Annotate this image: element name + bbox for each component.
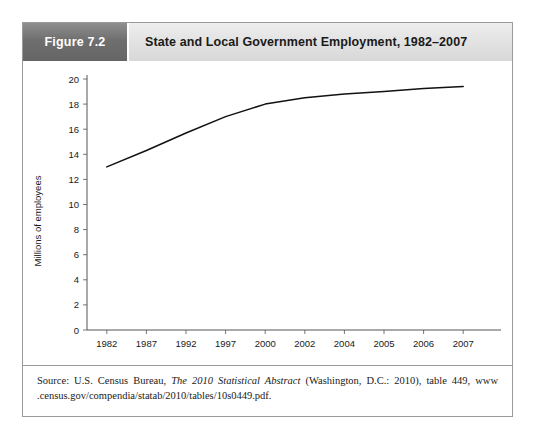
data-series-line (107, 87, 463, 167)
figure-number-badge: Figure 7.2 (23, 23, 129, 61)
y-axis-title-group: Millions of employees (32, 175, 43, 266)
x-tick-label: 2006 (413, 338, 434, 349)
figure-number-label: Figure 7.2 (44, 35, 105, 49)
x-tick-label: 1982 (96, 338, 117, 349)
figure-title-bar: State and Local Government Employment, 1… (129, 23, 512, 61)
y-tick-label: 16 (68, 124, 79, 135)
chart-plot-area: Millions of employees 02468101214161820 … (23, 61, 512, 367)
x-axis-ticks: 1982198719921997200020022004200520062007 (96, 330, 474, 349)
y-tick-label: 10 (68, 199, 79, 210)
figure-header: Figure 7.2 State and Local Government Em… (23, 23, 512, 61)
figure-title: State and Local Government Employment, 1… (145, 35, 467, 49)
y-tick-label: 20 (68, 74, 79, 85)
line-chart: Millions of employees 02468101214161820 … (23, 61, 512, 367)
y-tick-label: 12 (68, 174, 79, 185)
y-axis-ticks: 02468101214161820 (68, 74, 87, 336)
y-tick-label: 2 (74, 299, 79, 310)
y-tick-label: 14 (68, 149, 79, 160)
x-tick-label: 2007 (453, 338, 474, 349)
x-tick-label: 1987 (136, 338, 157, 349)
x-tick-label: 2005 (373, 338, 394, 349)
y-tick-label: 18 (68, 99, 79, 110)
y-tick-label: 0 (74, 325, 79, 336)
figure-container: Figure 7.2 State and Local Government Em… (22, 22, 513, 417)
x-tick-label: 2000 (255, 338, 276, 349)
source-italic-title: The 2010 Statistical Abstract (171, 375, 300, 386)
y-tick-label: 4 (74, 274, 79, 285)
source-prefix: Source: U.S. Census Bureau, (37, 375, 171, 386)
x-tick-label: 1997 (215, 338, 236, 349)
x-tick-label: 2004 (334, 338, 355, 349)
source-note: Source: U.S. Census Bureau, The 2010 Sta… (23, 365, 512, 416)
y-axis-title: Millions of employees (32, 175, 43, 266)
x-tick-label: 1992 (175, 338, 196, 349)
x-tick-label: 2002 (294, 338, 315, 349)
source-text: Source: U.S. Census Bureau, The 2010 Sta… (37, 373, 498, 403)
y-tick-label: 6 (74, 249, 79, 260)
y-tick-label: 8 (74, 224, 79, 235)
